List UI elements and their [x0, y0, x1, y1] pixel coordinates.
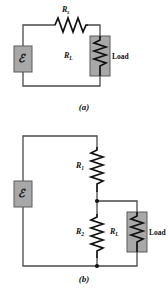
- emf-label-b: ℰ: [18, 187, 25, 200]
- resistor-b-r1-zigzag: [91, 147, 103, 192]
- resistor-a-series-zigzag: [55, 18, 88, 32]
- wire-a-top-right: [88, 25, 100, 36]
- resistor-b-r2-zigzag: [91, 214, 103, 258]
- panel-b-wires: [23, 136, 137, 266]
- junction-dot-top: [95, 199, 99, 203]
- divider-resistor-top-label: R1: [76, 161, 84, 170]
- panel-caption-a: (a): [64, 102, 104, 112]
- load-annotation-a: Load: [112, 52, 129, 61]
- panel-a-wires: [23, 25, 100, 86]
- load-resistor-label-b: RL: [110, 227, 119, 236]
- wire-b-top: [23, 136, 97, 181]
- circuit-schematic-svg: [0, 0, 168, 291]
- circuit-figure: ℰ Rs RL Load (a) ℰ R1 R2 RL Load (b): [0, 0, 168, 291]
- load-annotation-b: Load: [149, 228, 166, 237]
- panel-caption-b: (b): [64, 274, 104, 284]
- wire-a-top-left: [23, 25, 55, 46]
- wire-a-bottom: [23, 72, 100, 86]
- junction-dot-bottom: [95, 264, 99, 268]
- load-resistor-label-a: RL: [64, 51, 73, 60]
- series-resistor-label-a: Rs: [62, 5, 69, 14]
- wire-b-node-to-load: [97, 201, 137, 212]
- emf-label-a: ℰ: [18, 52, 25, 65]
- wire-b-bottom: [23, 207, 137, 266]
- divider-resistor-bottom-label: R2: [76, 227, 84, 236]
